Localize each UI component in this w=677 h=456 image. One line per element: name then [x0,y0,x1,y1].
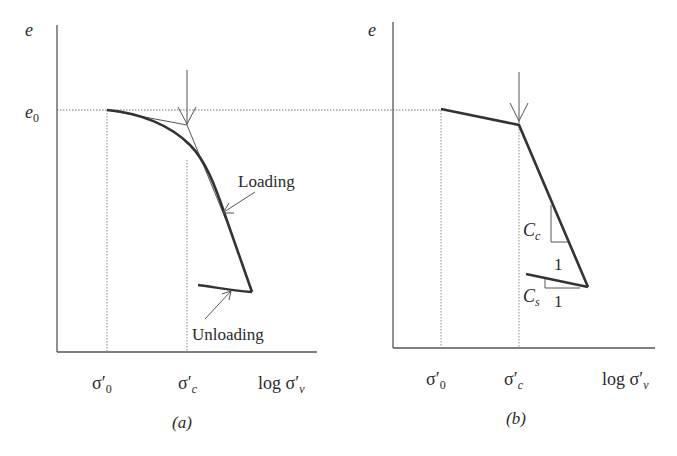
panel-a-loading-curve [107,110,252,292]
cc-run-label: 1 [554,255,563,274]
panel-a-unloading-pointer [205,291,231,319]
panel-b: Cc 1 Cs 1 e σ′0 σ′c log σ′v (b) [368,20,655,428]
panel-b-unloading-curve [526,274,588,287]
panel-a-y-label: e [25,20,33,40]
cs-label: Cs [523,286,540,309]
panel-a-x-label: log σ′v [258,373,305,396]
e0-label: e0 [25,102,39,125]
panel-b-tick-sigmac: σ′c [504,369,524,392]
panel-a-unloading-curve [198,285,252,292]
loading-label: Loading [238,172,295,191]
cc-label: Cc [523,220,541,243]
panel-a-tick-sigmac: σ′c [178,373,198,396]
panel-b-x-label: log σ′v [602,369,649,392]
panel-a-tangent-lower [187,125,226,220]
panel-b-y-label: e [368,20,376,40]
unloading-label: Unloading [192,325,264,344]
panel-b-loading-curve [441,109,588,287]
panel-a-tick-sigma0: σ′0 [92,373,112,396]
cs-run-label: 1 [554,292,563,311]
panel-b-tick-sigma0: σ′0 [426,369,446,392]
panel-a: Loading Unloading e e0 σ′0 σ′c log σ′v (… [25,20,441,432]
panel-a-loading-pointer [224,192,255,212]
panel-b-caption: (b) [506,409,526,428]
panel-a-caption: (a) [172,413,192,432]
consolidation-figure: Loading Unloading e e0 σ′0 σ′c log σ′v (… [0,0,677,456]
